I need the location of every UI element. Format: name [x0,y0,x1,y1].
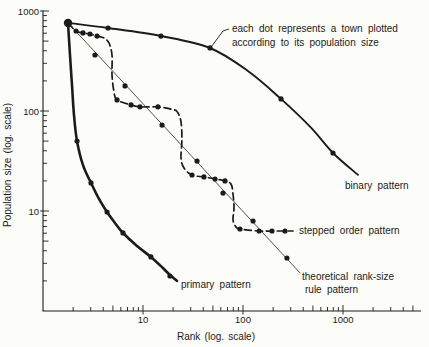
curve-theoretical-rank-size-rule-pattern [68,23,300,273]
town-dot [269,228,274,233]
town-dot [87,31,92,36]
x-tick-label-100: 100 [235,314,251,325]
town-dot [189,172,194,177]
rank-size-chart: 101001000100010010 theoretical rank-size… [0,0,429,347]
town-dot [278,96,283,101]
curve-primary-pattern [68,23,177,281]
town-dot [120,230,125,235]
town-dot [159,122,164,127]
y-axis-title: Population size (log. scale) [2,103,13,227]
rank-size-figure: 101001000100010010 theoretical rank-size… [0,0,429,347]
y-tick-label-10: 10 [28,206,39,217]
town-dot [201,174,206,179]
town-dot [74,138,79,143]
town-dot [88,180,93,185]
town-dot [257,228,262,233]
town-dot [105,25,110,30]
start-town-dot [64,19,72,27]
town-dot [212,176,217,181]
town-dot [330,150,335,155]
annotation-line-1: each dot represents a town plotted [232,23,398,34]
town-dot [237,226,242,231]
town-dot [80,30,85,35]
town-dot [282,228,287,233]
town-dot [167,273,172,278]
series-label-binary-pattern: binary pattern [345,180,409,191]
town-dot [284,255,289,260]
series-labels: theoretical rank-sizerule patternbinary … [181,180,409,295]
town-dot [250,218,255,223]
annotation-leader-line [212,29,230,47]
town-dot [122,83,127,88]
town-dot [222,178,227,183]
town-dot [137,104,142,109]
series-label-primary-pattern: primary pattern [181,279,251,290]
town-dot [158,33,163,38]
town-dot [194,158,199,163]
town-dots [64,19,336,279]
town-dot [155,104,160,109]
town-dot [114,97,119,102]
town-dot [148,254,153,259]
series-curves [68,23,358,281]
annotation-line-2: according to its population size [232,37,379,48]
x-tick-label-10: 10 [138,314,149,325]
series-label-stepped-order-pattern: stepped order pattern [299,225,400,236]
town-dot [92,52,97,57]
y-tick-label-100: 100 [23,106,39,117]
series-label-theoretical-rank-size-rule-pattern: rule pattern [305,284,358,295]
town-dot [73,28,78,33]
town-dot [128,102,133,107]
town-dot [104,209,109,214]
x-axis-title: Rank (log. scale) [177,331,255,342]
town-dot [220,191,225,196]
curve-stepped-order-pattern [68,23,293,231]
town-dot [94,33,99,38]
x-tick-label-1000: 1000 [332,314,353,325]
series-label-theoretical-rank-size-rule-pattern: theoretical rank-size [302,271,394,282]
y-tick-label-1000: 1000 [18,6,39,17]
